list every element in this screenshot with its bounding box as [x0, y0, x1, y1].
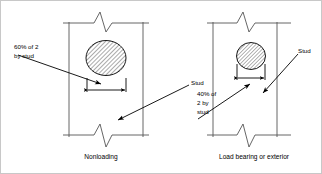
panel-nonloading: 60% of 2 by stud Stud Nonloading	[14, 12, 204, 161]
top-break-symbol	[63, 12, 149, 32]
bottom-break-symbol-right	[207, 124, 291, 147]
stud-label-right: Stud	[298, 47, 311, 54]
top-break-symbol-right	[207, 12, 291, 32]
leader-line-stud	[118, 85, 189, 120]
percent-label-right-line3: stud	[197, 108, 209, 115]
bottom-break-symbol	[63, 124, 149, 147]
caption-load-bearing: Load bearing or exterior	[219, 153, 290, 161]
panel-load-bearing: 40% of 2 by stud Stud Load bearing or ex…	[197, 12, 311, 161]
stud-label-left: Stud	[191, 79, 204, 86]
bored-hole-right	[237, 43, 266, 70]
percent-label-right-line1: 40% of	[197, 90, 217, 97]
bored-hole	[86, 41, 126, 76]
diagram-canvas: 60% of 2 by stud Stud Nonloading	[0, 0, 322, 174]
caption-nonloading: Nonloading	[84, 153, 118, 161]
leader-line-stud-right	[263, 54, 298, 93]
stud-boring-diagram: 60% of 2 by stud Stud Nonloading	[1, 1, 322, 174]
percent-label-line2: by stud	[14, 52, 35, 59]
percent-label-line1: 60% of 2	[14, 43, 39, 50]
percent-label-right-line2: 2 by	[197, 99, 210, 106]
